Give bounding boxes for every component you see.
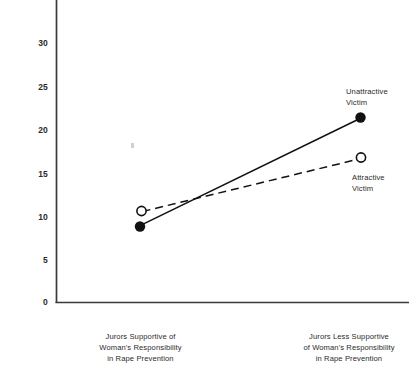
y-tick-label-30: 30: [22, 39, 48, 48]
x-category-label-left-line3: in Rape Prevention: [72, 353, 209, 364]
series-label-unattractive-victim-line1: Unattractive: [346, 86, 388, 97]
series-line-attractive-victim: [143, 159, 360, 212]
series-label-attractive-victim-line2: Victim: [352, 183, 385, 194]
series-line-unattractive-victim: [140, 119, 360, 226]
data-point-marker-attractive-left: [137, 206, 146, 215]
data-point-marker-attractive-right: [356, 153, 365, 162]
x-category-label-left: Jurors Supportive of Woman's Responsibil…: [72, 331, 209, 364]
scan-artifact-speck: [131, 143, 134, 148]
y-tick-label-10: 10: [22, 213, 48, 222]
y-tick-label-15: 15: [22, 170, 48, 179]
series-label-unattractive-victim-line2: Victim: [346, 97, 388, 108]
chart-plot-area: [0, 0, 409, 372]
series-label-unattractive-victim: Unattractive Victim: [346, 86, 388, 108]
x-category-label-right: Jurors Less Supportive of Woman's Respon…: [289, 331, 409, 364]
series-label-attractive-victim: Attractive Victim: [352, 172, 385, 194]
line-chart: 30 25 20 15 10 5 0 Unattractive Victim A…: [0, 0, 409, 372]
x-category-label-right-line3: in Rape Prevention: [289, 353, 409, 364]
y-tick-label-25: 25: [22, 83, 48, 92]
y-tick-label-5: 5: [22, 256, 48, 265]
x-category-label-right-line2: of Woman's Responsibility: [289, 342, 409, 353]
series-label-attractive-victim-line1: Attractive: [352, 172, 385, 183]
x-category-label-left-line2: Woman's Responsibility: [72, 342, 209, 353]
x-category-label-left-line1: Jurors Supportive of: [72, 331, 209, 342]
data-point-marker-unattractive-left: [135, 221, 145, 231]
y-tick-label-20: 20: [22, 126, 48, 135]
x-category-label-right-line1: Jurors Less Supportive: [289, 331, 409, 342]
data-point-marker-unattractive-right: [355, 112, 365, 122]
y-tick-label-0: 0: [22, 298, 48, 307]
